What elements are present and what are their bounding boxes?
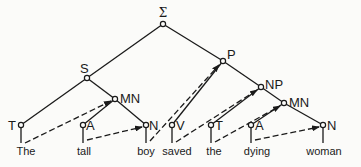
node-np-label: NP <box>265 78 283 91</box>
tree-diagram <box>0 0 361 167</box>
node-v-label: V <box>176 119 185 132</box>
node-root-label: Σ <box>159 7 167 20</box>
word-the: The <box>17 146 36 157</box>
node-mn-right-label: MN <box>289 96 309 109</box>
word-the-2: the <box>206 146 221 157</box>
word-woman: woman <box>306 146 341 157</box>
word-saved: saved <box>162 146 191 157</box>
node-n-left-label: N <box>149 119 158 132</box>
node-s-label: S <box>80 62 89 75</box>
word-dying: dying <box>244 146 270 157</box>
word-tall: tall <box>77 146 91 157</box>
node-circles <box>18 21 325 127</box>
node-p-label: P <box>227 48 236 61</box>
node-a-right-label: A <box>255 119 264 132</box>
node-t-left-label: T <box>8 119 16 132</box>
word-boy: boy <box>137 146 155 157</box>
node-t-right-label: T <box>215 119 223 132</box>
node-a-left-label: A <box>86 119 95 132</box>
node-n-right-label: N <box>327 119 336 132</box>
node-mn-left-label: MN <box>120 92 140 105</box>
